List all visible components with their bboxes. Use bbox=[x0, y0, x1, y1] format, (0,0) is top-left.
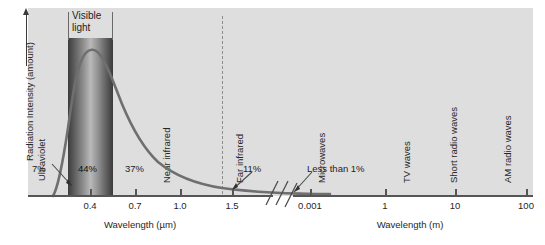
right-axis-title: Wavelength (m) bbox=[330, 219, 490, 230]
left-axis-ticklabel-2: 1.0 bbox=[165, 200, 195, 211]
left-axis-ticklabel-1: 0.7 bbox=[120, 200, 150, 211]
left-axis-tick-2 bbox=[180, 189, 182, 196]
left-axis-ticklabel-0: 0.4 bbox=[75, 200, 105, 211]
right-axis-ticklabel-1: 1 bbox=[370, 200, 400, 211]
visible-light-line2: light bbox=[72, 22, 90, 33]
right-axis-ticklabel-0: 0.001 bbox=[288, 200, 332, 211]
visible-band-right-tick bbox=[112, 12, 113, 40]
spectrum-figure: Radiation Intensity (amount) Visible lig… bbox=[0, 0, 545, 245]
region-label-am-radio-waves: AM radio waves bbox=[502, 115, 513, 183]
left-axis-tick-1 bbox=[135, 189, 137, 196]
right-axis-tick-1 bbox=[385, 189, 387, 196]
region-label-near-infrared: Near infrared bbox=[161, 128, 172, 183]
visible-band-left-tick bbox=[68, 12, 69, 40]
percent-visible: 44% bbox=[78, 163, 97, 174]
left-axis-tick-3 bbox=[232, 189, 234, 196]
right-axis-tick-2 bbox=[455, 189, 457, 196]
visible-light-line1: Visible bbox=[72, 10, 101, 21]
region-label-ultraviolet: Ultraviolet bbox=[36, 139, 47, 181]
percent-radio: Less than 1% bbox=[307, 163, 365, 174]
right-axis-line bbox=[293, 195, 533, 197]
right-axis-tick-0 bbox=[310, 189, 312, 196]
left-axis-tick-0 bbox=[90, 189, 92, 196]
region-label-far-infrared: Far infrared bbox=[234, 134, 245, 183]
infrared-divider bbox=[222, 16, 223, 194]
region-label-microwaves: Microwaves bbox=[316, 133, 327, 183]
region-label-short-radio-waves: Short radio waves bbox=[448, 107, 459, 183]
left-axis-ticklabel-3: 1.5 bbox=[217, 200, 247, 211]
right-axis-tick-3 bbox=[526, 189, 528, 196]
left-axis-line bbox=[28, 195, 273, 197]
visible-light-caption: Visible light bbox=[72, 10, 112, 33]
left-axis-title: Wavelength (µm) bbox=[60, 219, 220, 230]
percent-ultraviolet: 7% bbox=[32, 163, 46, 174]
right-axis-ticklabel-3: 100 bbox=[510, 200, 542, 211]
right-axis-ticklabel-2: 10 bbox=[440, 200, 470, 211]
percent-far-infrared: 11% bbox=[243, 163, 261, 174]
region-label-tv-waves: TV waves bbox=[401, 141, 412, 183]
percent-near-infrared: 37% bbox=[125, 163, 144, 174]
